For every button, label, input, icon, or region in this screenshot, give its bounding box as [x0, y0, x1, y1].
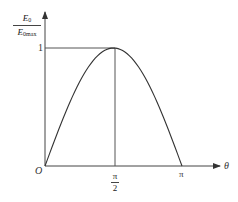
sine-curve — [45, 48, 182, 166]
y-tick-1: 1 — [38, 43, 43, 53]
x-tick-pi-half: π 2 — [110, 172, 120, 193]
x-tick-pi: π — [179, 170, 184, 179]
y-axis-label: E0 E0max — [12, 14, 42, 37]
x-axis-label-theta: θ — [224, 161, 229, 171]
pi-half-numerator: π — [113, 171, 118, 181]
y-label-denominator-sub: 0max — [23, 31, 36, 37]
origin-label: O — [35, 166, 42, 176]
y-label-numerator-sub: 0 — [28, 17, 31, 23]
pi-half-denominator: 2 — [113, 183, 118, 193]
